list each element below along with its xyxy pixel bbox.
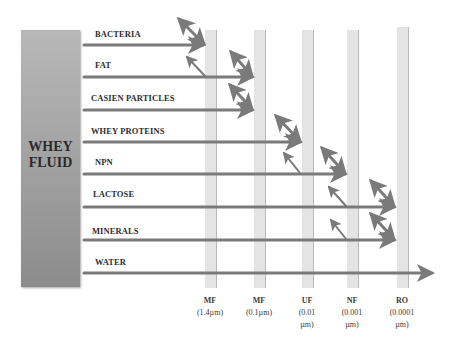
reflect-bacteria xyxy=(179,19,204,44)
thin-minerals xyxy=(331,220,346,239)
reflect-fat xyxy=(231,52,252,76)
membrane-label-ro: RO (0.0001 µm) xyxy=(379,295,425,331)
membrane-label-mf-1-4: MF (1.4µm) xyxy=(187,295,233,319)
label-bacteria: BACTERIA xyxy=(95,29,141,39)
label-water: WATER xyxy=(95,257,126,267)
membrane-size-line-2: µm) xyxy=(329,319,375,331)
label-lactose: LACTOSE xyxy=(93,189,134,199)
membrane-name: UF xyxy=(284,295,330,307)
membrane-size-line-1: (0.0001 xyxy=(379,307,425,319)
label-minerals: MINERALS xyxy=(92,226,139,236)
label-whey-proteins: WHEY PROTEINS xyxy=(91,126,164,136)
label-fat: FAT xyxy=(95,60,111,70)
flow-arrows xyxy=(0,0,456,345)
membrane-size-line-2: µm) xyxy=(284,319,330,331)
membrane-name: RO xyxy=(379,295,425,307)
label-npn: NPN xyxy=(95,157,113,167)
reflect-casein xyxy=(230,85,252,109)
membrane-name: NF xyxy=(329,295,375,307)
label-casein: CASIEN PARTICLES xyxy=(91,93,175,103)
membrane-size-line-1: (0.001 xyxy=(329,307,375,319)
thin-fat xyxy=(187,57,205,76)
reflect-minerals xyxy=(371,214,394,239)
membrane-label-mf-0-1: MF (0.1µm) xyxy=(236,295,282,319)
membrane-name: MF xyxy=(187,295,233,307)
membrane-size-line-1: (0.01 xyxy=(284,307,330,319)
membrane-label-nf: NF (0.001 µm) xyxy=(329,295,375,331)
thin-lactose xyxy=(329,187,346,206)
membrane-size: (0.1µm) xyxy=(236,307,282,319)
membrane-label-uf: UF (0.01 µm) xyxy=(284,295,330,331)
thin-npn xyxy=(284,153,300,173)
membrane-name: MF xyxy=(236,295,282,307)
reflect-lactose xyxy=(371,181,394,206)
reflect-whey-proteins xyxy=(276,116,300,141)
membrane-size: (1.4µm) xyxy=(187,307,233,319)
reflect-npn xyxy=(322,148,345,173)
membrane-size-line-2: µm) xyxy=(379,319,425,331)
